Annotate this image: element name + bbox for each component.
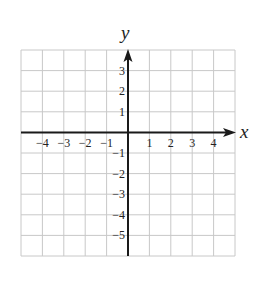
y-axis-label: y — [119, 22, 130, 43]
y-tick-label: −1 — [112, 146, 125, 160]
y-tick-label: 2 — [119, 84, 125, 98]
y-tick-label: 1 — [119, 105, 125, 119]
x-tick-label: 4 — [211, 136, 217, 150]
x-tick-label: 3 — [189, 136, 195, 150]
x-tick-label: 1 — [146, 136, 152, 150]
y-tick-label: −3 — [112, 187, 125, 201]
y-tick-label: 3 — [119, 64, 125, 78]
x-axis-label: x — [239, 121, 249, 142]
coordinate-plane: −4−3−2−11234 321−1−2−3−4−5 x y — [0, 0, 258, 282]
x-tick-label: −1 — [100, 136, 113, 150]
y-tick-label: −2 — [112, 167, 125, 181]
y-tick-labels: 321−1−2−3−4−5 — [112, 64, 125, 243]
x-tick-label: −3 — [57, 136, 70, 150]
x-tick-label: −2 — [79, 136, 92, 150]
y-tick-label: −4 — [112, 208, 125, 222]
x-tick-labels: −4−3−2−11234 — [36, 136, 217, 150]
y-tick-label: −5 — [112, 228, 125, 242]
x-tick-label: −4 — [36, 136, 49, 150]
x-tick-label: 2 — [168, 136, 174, 150]
